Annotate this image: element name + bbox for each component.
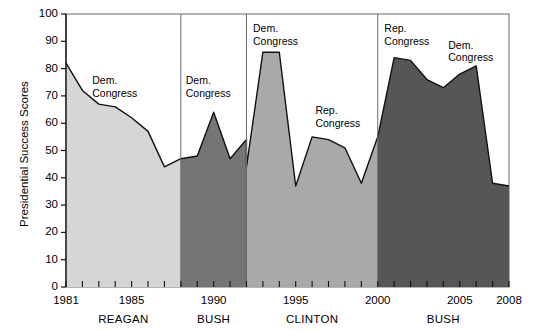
congress-annotation-4: Rep.Congress bbox=[384, 22, 429, 47]
x-tick-label: 2000 bbox=[348, 294, 408, 306]
y-tick-label: 0 bbox=[32, 280, 58, 292]
y-tick-label: 100 bbox=[32, 7, 58, 19]
president-label-bush: BUSH bbox=[169, 313, 259, 325]
congress-annotation-2: Dem.Congress bbox=[253, 22, 298, 47]
annotation-line2: Congress bbox=[92, 87, 137, 100]
x-tick-label: 1990 bbox=[184, 294, 244, 306]
x-tick-label: 1985 bbox=[102, 294, 162, 306]
annotation-line1: Rep. bbox=[384, 22, 429, 35]
annotation-line2: Congress bbox=[384, 35, 429, 48]
congress-annotation-0: Dem.Congress bbox=[92, 74, 137, 99]
chart-container: Presidential Success Scores 010203040506… bbox=[0, 0, 543, 331]
area-series-1 bbox=[181, 112, 247, 287]
congress-annotation-3: Rep.Congress bbox=[315, 104, 360, 129]
annotation-line2: Congress bbox=[186, 87, 231, 100]
president-label-reagan: REAGAN bbox=[78, 313, 168, 325]
president-label-clinton: CLINTON bbox=[267, 313, 357, 325]
y-tick-label: 40 bbox=[32, 171, 58, 183]
y-tick-label: 60 bbox=[32, 116, 58, 128]
annotation-line2: Congress bbox=[315, 117, 360, 130]
x-tick-label: 2008 bbox=[479, 294, 539, 306]
x-tick-label: 1995 bbox=[266, 294, 326, 306]
annotation-line1: Dem. bbox=[448, 39, 493, 52]
y-tick-label: 30 bbox=[32, 198, 58, 210]
y-tick-label: 90 bbox=[32, 34, 58, 46]
y-tick-label: 50 bbox=[32, 144, 58, 156]
x-tick-label: 1981 bbox=[36, 294, 96, 306]
annotation-line1: Dem. bbox=[92, 74, 137, 87]
annotation-line1: Rep. bbox=[315, 104, 360, 117]
y-tick-label: 70 bbox=[32, 89, 58, 101]
president-label-bush: BUSH bbox=[398, 313, 488, 325]
annotation-line2: Congress bbox=[448, 51, 493, 64]
annotation-line1: Dem. bbox=[186, 74, 231, 87]
congress-annotation-1: Dem.Congress bbox=[186, 74, 231, 99]
annotation-line1: Dem. bbox=[253, 22, 298, 35]
annotation-line2: Congress bbox=[253, 35, 298, 48]
y-axis-label: Presidential Success Scores bbox=[18, 54, 30, 254]
area-series-3 bbox=[378, 58, 509, 287]
y-tick-label: 80 bbox=[32, 62, 58, 74]
y-tick-label: 20 bbox=[32, 225, 58, 237]
y-tick-label: 10 bbox=[32, 253, 58, 265]
congress-annotation-5: Dem.Congress bbox=[448, 39, 493, 64]
area-series-2 bbox=[246, 52, 377, 287]
